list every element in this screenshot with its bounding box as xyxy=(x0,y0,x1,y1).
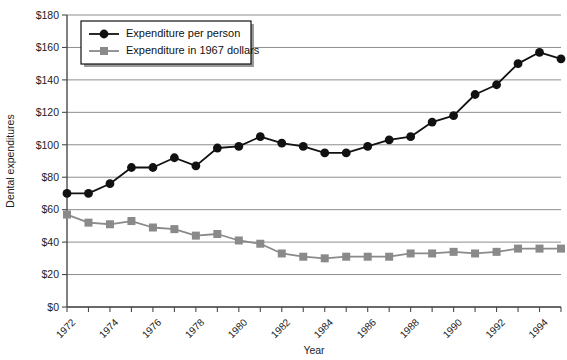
data-point xyxy=(449,111,458,120)
data-point xyxy=(235,236,243,244)
data-point xyxy=(170,153,179,162)
x-tick-label: 1986 xyxy=(355,316,379,340)
data-point xyxy=(84,219,92,227)
x-tick-label: 1972 xyxy=(54,316,78,340)
data-point xyxy=(321,254,329,262)
y-tick-label: $40 xyxy=(41,236,59,248)
data-point xyxy=(84,189,93,198)
data-point xyxy=(493,248,501,256)
data-point xyxy=(299,253,307,261)
data-point xyxy=(407,249,415,257)
data-point xyxy=(63,189,72,198)
data-point xyxy=(471,90,480,99)
data-point xyxy=(492,80,501,89)
x-tick-label: 1982 xyxy=(269,316,293,340)
data-point xyxy=(278,249,286,257)
data-point xyxy=(149,224,157,232)
data-point xyxy=(514,59,523,68)
data-point xyxy=(170,225,178,233)
data-point xyxy=(191,161,200,170)
legend-marker-circle xyxy=(100,30,109,39)
data-point xyxy=(192,232,200,240)
data-point xyxy=(557,245,565,253)
x-axis: 1972197419761978198019821984198619881990… xyxy=(54,307,561,340)
y-tick-label: $80 xyxy=(41,171,59,183)
data-point xyxy=(450,248,458,256)
y-tick-label: $100 xyxy=(36,139,60,151)
data-point xyxy=(428,249,436,257)
y-tick-label: $60 xyxy=(41,203,59,215)
y-tick-label: $180 xyxy=(36,9,60,21)
data-point xyxy=(256,240,264,248)
y-tick-label: $120 xyxy=(36,106,60,118)
data-point xyxy=(363,142,372,151)
data-point xyxy=(63,211,71,219)
data-point xyxy=(385,136,394,145)
x-tick-label: 1990 xyxy=(441,316,465,340)
series-1 xyxy=(63,48,566,198)
data-point xyxy=(557,54,566,63)
y-tick-label: $140 xyxy=(36,74,60,86)
data-point xyxy=(149,163,158,172)
chart-canvas: $0$20$40$60$80$100$120$140$160$180Dental… xyxy=(0,0,567,360)
data-point xyxy=(106,179,115,188)
data-point xyxy=(256,132,265,141)
x-tick-label: 1976 xyxy=(140,316,164,340)
data-point xyxy=(342,253,350,261)
x-tick-label: 1974 xyxy=(97,316,121,340)
data-point xyxy=(342,148,351,157)
data-point xyxy=(514,245,522,253)
x-axis-title: Year xyxy=(303,344,325,356)
x-tick-label: 1994 xyxy=(526,316,550,340)
y-tick-label: $160 xyxy=(36,41,60,53)
data-point xyxy=(536,245,544,253)
data-point xyxy=(428,118,437,127)
y-tick-label: $20 xyxy=(41,268,59,280)
data-point xyxy=(406,132,415,141)
data-point xyxy=(320,148,329,157)
x-tick-label: 1980 xyxy=(226,316,250,340)
data-point xyxy=(277,139,286,148)
data-point xyxy=(213,230,221,238)
legend-marker-square xyxy=(100,47,108,55)
series-line xyxy=(67,52,561,193)
x-tick-label: 1992 xyxy=(483,316,507,340)
data-point xyxy=(471,249,479,257)
series-line xyxy=(67,215,561,259)
y-axis: $0$20$40$60$80$100$120$140$160$180 xyxy=(36,9,67,313)
data-point xyxy=(127,163,136,172)
x-tick-label: 1978 xyxy=(183,316,207,340)
x-tick-label: 1988 xyxy=(398,316,422,340)
data-point xyxy=(385,253,393,261)
x-tick-label: 1984 xyxy=(312,316,336,340)
data-point xyxy=(234,142,243,151)
y-axis-title: Dental expenditures xyxy=(4,114,16,207)
dental-expenditures-chart: $0$20$40$60$80$100$120$140$160$180Dental… xyxy=(0,0,567,360)
data-point xyxy=(127,217,135,225)
legend: Expenditure per personExpenditure in 196… xyxy=(81,21,260,67)
series-2 xyxy=(63,211,565,263)
data-point xyxy=(299,142,308,151)
data-point xyxy=(106,220,114,228)
legend-label-1: Expenditure per person xyxy=(126,27,240,39)
data-point xyxy=(364,253,372,261)
data-point xyxy=(535,48,544,57)
y-tick-label: $0 xyxy=(47,301,59,313)
legend-label-2: Expenditure in 1967 dollars xyxy=(126,44,260,56)
data-point xyxy=(213,144,222,153)
